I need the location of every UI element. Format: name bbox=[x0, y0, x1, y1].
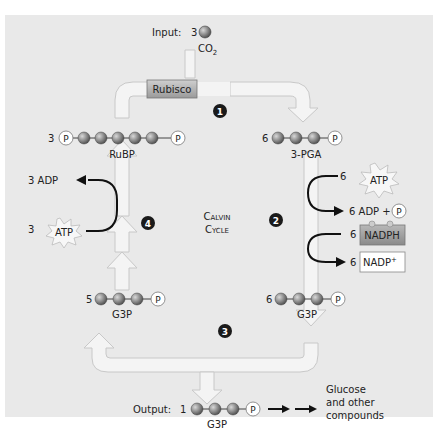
step-badge-4: 4 bbox=[141, 216, 155, 230]
svg-text:P: P bbox=[332, 134, 338, 144]
svg-text:6: 6 bbox=[266, 294, 272, 305]
co2-molecule-icon bbox=[199, 26, 211, 38]
rubisco-label: Rubisco bbox=[153, 84, 192, 95]
output-label: Output: bbox=[133, 404, 171, 415]
svg-text:4: 4 bbox=[145, 219, 151, 229]
svg-text:P: P bbox=[396, 207, 402, 217]
arrow-icon bbox=[282, 405, 290, 413]
g3p-left-molecule: 5 P G3P bbox=[86, 292, 165, 320]
step-badge-3: 3 bbox=[218, 324, 232, 338]
svg-text:P: P bbox=[175, 134, 181, 144]
center-label-line2: Cycle bbox=[205, 224, 229, 235]
input-label: Input: bbox=[152, 27, 181, 38]
svg-text:3: 3 bbox=[48, 133, 54, 144]
svg-text:6 ADP +: 6 ADP + bbox=[349, 206, 391, 217]
pga-molecule: 6 P 3-PGA bbox=[262, 131, 342, 160]
svg-text:3 ADP: 3 ADP bbox=[28, 175, 58, 186]
svg-text:P: P bbox=[155, 295, 161, 305]
output-section: Output: 1 P G3P Glucose and other compou… bbox=[133, 384, 384, 430]
svg-text:1: 1 bbox=[217, 107, 223, 117]
rubisco-enzyme: Rubisco bbox=[147, 80, 197, 98]
step2-nadph: 6 NADPH 6 NADP+ bbox=[308, 221, 405, 272]
svg-text:2: 2 bbox=[273, 216, 279, 226]
input-count: 3 bbox=[191, 27, 197, 38]
svg-text:6: 6 bbox=[350, 229, 356, 240]
arrow-icon bbox=[309, 405, 317, 413]
svg-text:RuBP: RuBP bbox=[109, 149, 135, 160]
calvin-cycle-diagram: Rubisco Input: 3 CO2 1 2 3 4 Calvin Cycl… bbox=[0, 0, 433, 441]
step-badge-1: 1 bbox=[213, 104, 227, 118]
svg-text:G3P: G3P bbox=[207, 419, 227, 430]
co2-label: CO2 bbox=[198, 43, 217, 57]
step2-atp: 6 ATP 6 ADP + P bbox=[308, 163, 406, 218]
svg-text:G3P: G3P bbox=[112, 309, 132, 320]
svg-text:6: 6 bbox=[340, 171, 346, 182]
svg-text:6: 6 bbox=[262, 133, 268, 144]
svg-text:P: P bbox=[63, 134, 69, 144]
svg-text:3-PGA: 3-PGA bbox=[291, 149, 322, 160]
svg-text:ATP: ATP bbox=[370, 175, 388, 186]
svg-text:compounds: compounds bbox=[326, 410, 384, 421]
svg-text:NADPH: NADPH bbox=[364, 230, 400, 241]
step-badge-2: 2 bbox=[269, 213, 283, 227]
svg-text:P: P bbox=[250, 405, 256, 415]
svg-text:P: P bbox=[335, 295, 341, 305]
svg-text:1: 1 bbox=[180, 404, 186, 415]
svg-text:and other: and other bbox=[326, 397, 376, 408]
svg-text:3: 3 bbox=[28, 224, 34, 235]
svg-text:6: 6 bbox=[350, 257, 356, 268]
step4-energy: 3 ADP 3 ATP bbox=[28, 175, 117, 248]
svg-text:3: 3 bbox=[222, 327, 228, 337]
svg-text:Glucose: Glucose bbox=[326, 384, 366, 395]
center-label-line1: Calvin bbox=[204, 211, 231, 222]
svg-text:ATP: ATP bbox=[55, 227, 73, 238]
svg-text:5: 5 bbox=[86, 294, 92, 305]
svg-text:G3P: G3P bbox=[297, 309, 317, 320]
